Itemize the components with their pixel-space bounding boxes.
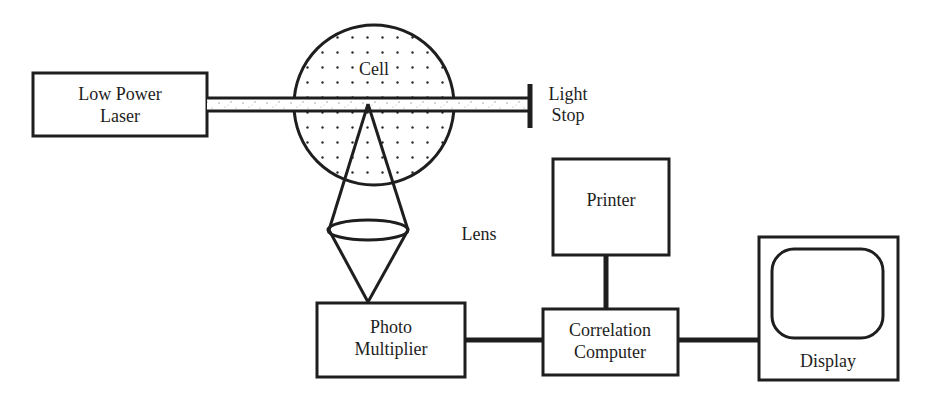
light-scattering-diagram: Low Power Laser Cell Light Stop Lens Pho…: [0, 0, 927, 403]
light-stop-label-line1: Light: [549, 84, 588, 104]
laser-box: [33, 73, 207, 136]
cell-label: Cell: [359, 59, 389, 79]
photomultiplier-label-line1: Photo: [370, 317, 412, 337]
photomultiplier-label-line2: Multiplier: [355, 339, 428, 359]
correlator-label-line1: Correlation: [569, 320, 651, 340]
light-stop-label-line2: Stop: [551, 105, 584, 125]
correlator-label-line2: Computer: [574, 342, 646, 362]
display-block: Display: [759, 237, 898, 380]
display-label: Display: [800, 351, 856, 371]
laser-block: Low Power Laser: [33, 73, 207, 136]
printer-block: Printer: [553, 159, 669, 255]
lens-label: Lens: [462, 224, 497, 244]
photomultiplier-block: Photo Multiplier: [317, 303, 465, 377]
printer-label: Printer: [587, 190, 636, 210]
laser-label-line2: Laser: [100, 106, 140, 126]
lens-ellipse: [328, 220, 408, 240]
correlator-block: Correlation Computer: [543, 309, 678, 375]
light-stop-block: Light Stop: [530, 84, 588, 128]
laser-label-line1: Low Power: [78, 84, 162, 104]
